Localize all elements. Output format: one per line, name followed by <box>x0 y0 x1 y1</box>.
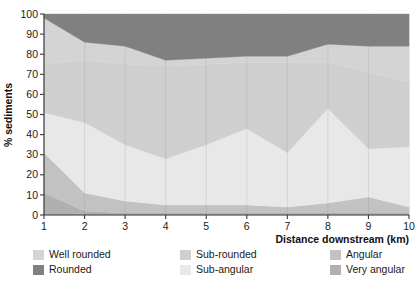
x-axis-ticks: 12345678910 <box>41 215 415 232</box>
y-tick-label-100: 100 <box>20 8 38 20</box>
legend-swatch-well-rounded <box>33 250 44 260</box>
legend-item-well-rounded[interactable]: Well rounded <box>33 248 111 260</box>
legend-item-angular[interactable]: Angular <box>330 248 383 260</box>
legend-label-sub-rounded: Sub-rounded <box>196 248 257 260</box>
x-tick-label-5: 5 <box>203 220 209 232</box>
legend-label-rounded: Rounded <box>49 263 92 275</box>
y-tick-label-60: 60 <box>26 88 38 100</box>
y-tick-label-10: 10 <box>26 189 38 201</box>
x-tick-label-3: 3 <box>122 220 128 232</box>
y-tick-label-80: 80 <box>26 48 38 60</box>
x-tick-label-10: 10 <box>403 220 415 232</box>
y-axis-title: % sediments <box>2 83 14 147</box>
y-tick-label-20: 20 <box>26 168 38 180</box>
y-tick-label-70: 70 <box>26 68 38 80</box>
legend-item-very-angular[interactable]: Very angular <box>330 263 405 275</box>
legend-item-rounded[interactable]: Rounded <box>33 263 92 275</box>
x-tick-label-6: 6 <box>244 220 250 232</box>
x-tick-label-2: 2 <box>82 220 88 232</box>
y-tick-label-40: 40 <box>26 128 38 140</box>
y-tick-label-90: 90 <box>26 28 38 40</box>
x-tick-label-8: 8 <box>325 220 331 232</box>
legend-label-angular: Angular <box>346 248 383 260</box>
legend-swatch-rounded <box>33 265 44 275</box>
legend-label-well-rounded: Well rounded <box>49 248 111 260</box>
stacked-areas <box>44 14 409 215</box>
y-tick-label-50: 50 <box>26 108 38 120</box>
legend-swatch-sub-rounded <box>180 250 191 260</box>
x-tick-label-1: 1 <box>41 220 47 232</box>
y-tick-label-30: 30 <box>26 148 38 160</box>
chart-canvas: 010203040506070809010012345678910% sedim… <box>0 0 416 290</box>
legend-label-sub-angular: Sub-angular <box>196 263 254 275</box>
sediment-roundness-area-chart: 010203040506070809010012345678910% sedim… <box>0 0 416 290</box>
legend-item-sub-rounded[interactable]: Sub-rounded <box>180 248 257 260</box>
x-tick-label-4: 4 <box>163 220 169 232</box>
legend-swatch-very-angular <box>330 265 341 275</box>
legend-item-sub-angular[interactable]: Sub-angular <box>180 263 254 275</box>
y-tick-label-0: 0 <box>32 209 38 221</box>
legend-swatch-angular <box>330 250 341 260</box>
x-tick-label-7: 7 <box>284 220 290 232</box>
y-axis-ticks: 0102030405060708090100 <box>20 8 44 221</box>
legend-swatch-sub-angular <box>180 265 191 275</box>
legend: Well roundedRoundedSub-roundedSub-angula… <box>33 248 405 275</box>
legend-label-very-angular: Very angular <box>346 263 405 275</box>
x-tick-label-9: 9 <box>366 220 372 232</box>
x-axis-title: Distance downstream (km) <box>275 233 409 245</box>
